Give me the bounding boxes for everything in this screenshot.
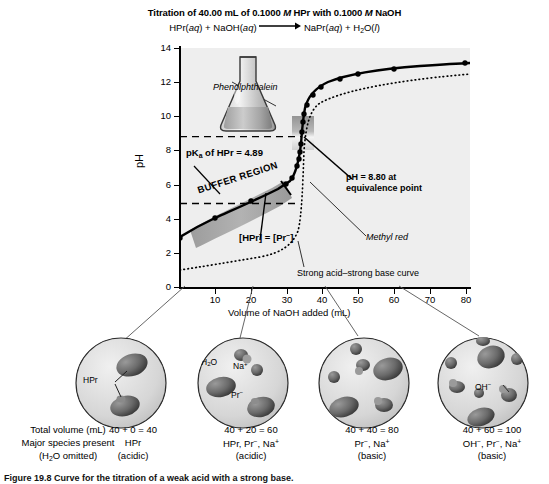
title-part-a: Titration of 40.00 mL of 0.1000 xyxy=(148,7,283,18)
title-part-b: HPr with 0.1000 xyxy=(291,7,365,18)
stage-1-volume: 40 + 20 = 60 xyxy=(196,424,306,437)
molecular-view-bubble-stage-0: HPr xyxy=(75,337,167,429)
reaction-equation: HPr(aq) + NaOH(aq) NaPr(aq) + H2O(l) xyxy=(0,21,549,34)
stage-2-volume: 40 + 40 = 80 xyxy=(317,424,427,437)
equation-reactants: HPr(aq) + NaOH(aq) xyxy=(169,22,256,33)
y-axis-label-8: 8 xyxy=(149,144,171,155)
bubble-label-hydroxide: OH− xyxy=(475,381,491,392)
equivalence-line-1: pH = 8.80 at xyxy=(346,172,422,183)
stage-0-volume: 40 + 0 = 40 xyxy=(78,424,188,437)
y-axis-label-6: 6 xyxy=(149,179,171,190)
stage-3-volume: 40 + 60 = 100 xyxy=(437,424,547,437)
half-equivalence-label: [HPr] = [Pr−] xyxy=(239,232,293,243)
reaction-arrow-icon xyxy=(259,21,301,29)
y-axis-title: pH xyxy=(133,154,145,168)
bubble-label-hpr: HPr xyxy=(83,375,98,385)
y-axis-label-12: 12 xyxy=(149,76,171,87)
molecular-view-bubble-stage-1: H2O Na+ Pr− xyxy=(197,337,289,429)
stage-1-condition: (acidic) xyxy=(196,450,306,463)
y-axis-tick xyxy=(174,150,179,151)
stage-3-species: OH−, Pr−, Na+ xyxy=(437,437,547,451)
y-axis-tick xyxy=(174,253,179,254)
phenolphthalein-label: Phenolphthalein xyxy=(213,82,278,93)
y-axis-tick xyxy=(174,185,179,186)
phenolphthalein-flask-image xyxy=(215,55,281,137)
pka-label: pKa of HPr = 4.89 xyxy=(186,147,263,160)
stage-2-condition: (basic) xyxy=(317,450,427,463)
water-omitted-pre: (H xyxy=(39,450,49,461)
stage-1-species: HPr, Pr−, Na+ xyxy=(196,437,306,451)
half-eq-suffix: ] xyxy=(290,232,293,243)
y-axis-tick xyxy=(174,48,179,49)
figure-caption: Figure 19.8 Curve for the titration of a… xyxy=(4,473,294,483)
molecular-view-bubble-stage-3: OH− xyxy=(437,337,529,429)
half-eq-prefix: [HPr] = [Pr xyxy=(239,232,286,243)
equation-products: NaPr(aq) + H2O(l) xyxy=(304,22,380,33)
bubble-label-propanoate: Pr− xyxy=(231,389,243,400)
stage-2-species: Pr−, Na+ xyxy=(317,437,427,451)
y-axis-tick xyxy=(174,219,179,220)
bubble-label-sodium: Na+ xyxy=(233,360,247,371)
pka-suffix: of HPr = 4.89 xyxy=(202,147,262,158)
methyl-red-label: Methyl red xyxy=(366,232,408,243)
stage-0-species: HPr xyxy=(78,437,188,450)
title-part-c: NaOH xyxy=(373,7,402,18)
title-molarity-2: M xyxy=(365,7,373,18)
pka-prefix: pK xyxy=(186,147,199,158)
molecular-view-bubble-stage-2 xyxy=(318,337,410,429)
figure-container: Titration of 40.00 mL of 0.1000 M HPr wi… xyxy=(0,0,549,484)
stage-caption-3: 40 + 60 = 100 OH−, Pr−, Na+ (basic) xyxy=(437,424,547,463)
bubble-label-water: H2O xyxy=(201,357,217,367)
stage-3-condition: (basic) xyxy=(437,450,547,463)
y-axis-label-4: 4 xyxy=(149,213,171,224)
strong-acid-curve-label: Strong acid–strong base curve xyxy=(297,268,419,279)
y-axis-label-14: 14 xyxy=(149,42,171,53)
equivalence-point-label: pH = 8.80 at equivalence point xyxy=(346,172,422,193)
stage-caption-0: 40 + 0 = 40 HPr (acidic) xyxy=(78,424,188,462)
y-axis-line xyxy=(179,46,181,289)
equivalence-line-2: equivalence point xyxy=(346,183,422,194)
stage-caption-2: 40 + 40 = 80 Pr−, Na+ (basic) xyxy=(317,424,427,463)
y-axis-label-2: 2 xyxy=(149,247,171,258)
y-axis-tick xyxy=(174,116,179,117)
stage-0-condition: (acidic) xyxy=(78,450,188,463)
stage-caption-1: 40 + 20 = 60 HPr, Pr−, Na+ (acidic) xyxy=(196,424,306,463)
y-axis-label-10: 10 xyxy=(149,110,171,121)
figure-title: Titration of 40.00 mL of 0.1000 M HPr wi… xyxy=(0,7,549,18)
title-molarity-1: M xyxy=(283,7,291,18)
y-axis-tick xyxy=(174,82,179,83)
